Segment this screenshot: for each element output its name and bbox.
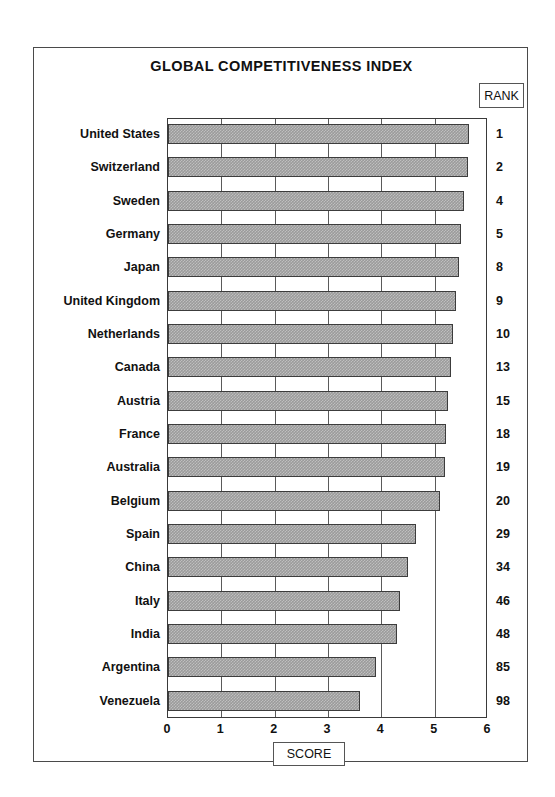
category-label: Italy (135, 585, 160, 618)
chart-row: Venezuela98 (34, 685, 529, 718)
category-label: Venezuela (100, 685, 160, 718)
chart-row: United Kingdom9 (34, 285, 529, 318)
category-label: Sweden (113, 185, 160, 218)
rank-value: 18 (496, 418, 510, 451)
x-tick-label-5: 5 (430, 722, 437, 736)
rank-value: 4 (496, 185, 503, 218)
chart-row: Australia19 (34, 451, 529, 484)
chart-row: Argentina85 (34, 651, 529, 684)
x-tick-label-6: 6 (484, 722, 491, 736)
chart-row: Germany5 (34, 218, 529, 251)
rank-value: 9 (496, 285, 503, 318)
chart-row: Canada13 (34, 351, 529, 384)
category-label: Japan (124, 251, 160, 284)
category-label: United States (80, 118, 160, 151)
x-tick-label-3: 3 (324, 722, 331, 736)
category-label: Argentina (102, 651, 160, 684)
rank-value: 10 (496, 318, 510, 351)
bar (168, 157, 468, 177)
bar (168, 524, 416, 544)
bar (168, 591, 400, 611)
rank-value: 48 (496, 618, 510, 651)
chart-row: Sweden4 (34, 185, 529, 218)
x-tick-label-1: 1 (217, 722, 224, 736)
bar (168, 191, 464, 211)
rank-value: 1 (496, 118, 503, 151)
bar (168, 224, 461, 244)
rank-value: 29 (496, 518, 510, 551)
chart-row: Japan8 (34, 251, 529, 284)
bar (168, 324, 453, 344)
category-label: Australia (107, 451, 161, 484)
bar (168, 491, 440, 511)
bar (168, 291, 456, 311)
bar (168, 257, 459, 277)
rank-value: 85 (496, 651, 510, 684)
rank-value: 19 (496, 451, 510, 484)
rank-value: 34 (496, 551, 510, 584)
category-label: Canada (115, 351, 160, 384)
chart-row: China34 (34, 551, 529, 584)
rank-value: 13 (496, 351, 510, 384)
bar (168, 391, 448, 411)
rank-value: 5 (496, 218, 503, 251)
category-label: India (131, 618, 160, 651)
x-axis-label: SCORE (273, 742, 345, 766)
rank-value: 20 (496, 485, 510, 518)
rank-value: 15 (496, 385, 510, 418)
bar (168, 557, 408, 577)
category-label: Netherlands (88, 318, 160, 351)
x-tick-label-2: 2 (270, 722, 277, 736)
chart-row: Austria15 (34, 385, 529, 418)
chart-row: India48 (34, 618, 529, 651)
category-label: Austria (117, 385, 160, 418)
bar (168, 691, 360, 711)
rank-value: 46 (496, 585, 510, 618)
category-label: China (125, 551, 160, 584)
category-label: Germany (106, 218, 160, 251)
chart-row: Italy46 (34, 585, 529, 618)
bar-rows: United States1Switzerland2Sweden4Germany… (34, 118, 529, 718)
chart-row: Netherlands10 (34, 318, 529, 351)
chart-figure: GLOBAL COMPETITIVENESS INDEX RANK United… (33, 47, 528, 762)
bar (168, 457, 445, 477)
category-label: Switzerland (91, 151, 160, 184)
category-label: Belgium (111, 485, 160, 518)
chart-row: Belgium20 (34, 485, 529, 518)
category-label: France (119, 418, 160, 451)
chart-title: GLOBAL COMPETITIVENESS INDEX (34, 58, 529, 74)
bar (168, 624, 397, 644)
rank-value: 98 (496, 685, 510, 718)
chart-row: Spain29 (34, 518, 529, 551)
chart-row: France18 (34, 418, 529, 451)
rank-value: 2 (496, 151, 503, 184)
bar (168, 424, 446, 444)
x-tick-label-0: 0 (164, 722, 171, 736)
rank-column-header: RANK (479, 83, 524, 108)
x-tick-label-4: 4 (377, 722, 384, 736)
x-axis-ticks: 0123456 (167, 722, 487, 740)
chart-row: Switzerland2 (34, 151, 529, 184)
bar (168, 657, 376, 677)
rank-value: 8 (496, 251, 503, 284)
category-label: Spain (126, 518, 160, 551)
category-label: United Kingdom (63, 285, 160, 318)
bar (168, 124, 469, 144)
chart-row: United States1 (34, 118, 529, 151)
bar (168, 357, 451, 377)
